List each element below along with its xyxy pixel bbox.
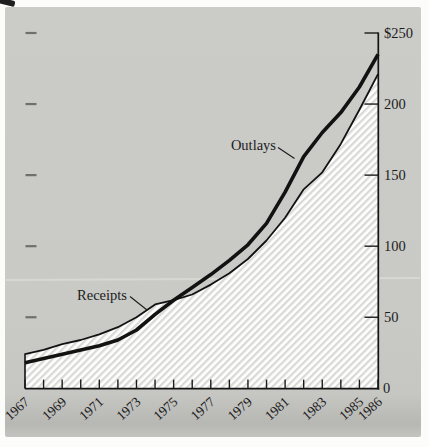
receipts-leader-line: [130, 297, 147, 311]
left-tick-marks: [26, 33, 37, 317]
x-tick-label: 1969: [39, 394, 69, 423]
x-tick-label: 1967: [2, 394, 32, 423]
x-tick-label: 1977: [188, 394, 218, 423]
y-tick-label: 150: [384, 167, 406, 183]
y-tick-label: 100: [384, 238, 406, 254]
x-tick-label: 1979: [225, 394, 255, 423]
y-tick-label: 0: [383, 380, 390, 396]
outlays-label: Outlays: [231, 137, 276, 153]
x-tick-label: 1981: [262, 394, 292, 423]
receipts-outlays-chart: Outlays Receipts $250 200 150 100 50 0 1…: [0, 0, 429, 447]
y-tick-label: 50: [384, 309, 399, 325]
x-tick-label: 1975: [151, 394, 181, 423]
y-tick-label: $250: [384, 25, 413, 41]
x-tick-label: 1971: [76, 394, 106, 423]
y-tick-label: 200: [384, 96, 406, 112]
receipts-label: Receipts: [77, 287, 127, 303]
x-tick-label: 1973: [113, 394, 143, 423]
outlays-leader-line: [278, 148, 295, 159]
x-tick-label: 1983: [299, 394, 329, 423]
